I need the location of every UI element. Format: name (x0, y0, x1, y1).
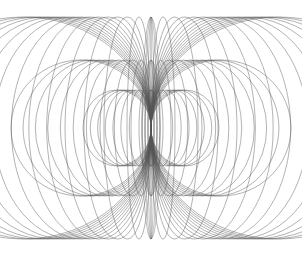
middle-field-line (11, 60, 151, 196)
outer-field-line (29, 17, 151, 239)
outer-field-line (47, 17, 151, 239)
middle-field-line (151, 60, 291, 196)
outer-field-line (84, 17, 151, 239)
middle-field-line (151, 60, 254, 196)
outer-field-line (151, 17, 198, 239)
outer-field-line (151, 17, 291, 239)
outer-field-line (151, 17, 218, 239)
middle-field-line (48, 60, 151, 196)
outer-field-line (151, 17, 237, 239)
middle-field-line (60, 60, 151, 196)
middle-field-line (151, 60, 242, 196)
outer-field-line (65, 17, 151, 239)
inner-field-line (151, 90, 204, 166)
outer-field-line (151, 17, 273, 239)
outer-field-line (11, 17, 151, 239)
outer-field-line (0, 17, 151, 239)
inner-field-line (98, 90, 151, 166)
inner-field-line (105, 90, 151, 166)
field-line-figure (0, 0, 302, 256)
outer-field-line (151, 17, 302, 239)
outer-field-line (104, 17, 151, 239)
outer-field-line (151, 17, 255, 239)
inner-field-line (151, 90, 197, 166)
